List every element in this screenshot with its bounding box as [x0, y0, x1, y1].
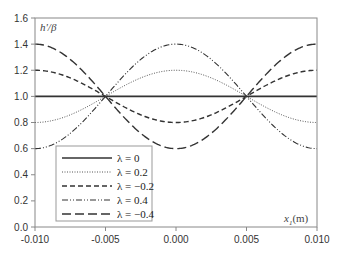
x-tick-label: 0.010	[304, 234, 329, 245]
y-tick-label: 0.4	[14, 169, 28, 180]
y-tick-label: 0.0	[14, 222, 28, 233]
y-axis-label: h'/β	[40, 21, 57, 33]
x-axis-label: x1(m)	[283, 212, 309, 227]
line-chart: 0.00.20.40.60.81.01.21.41.6 -0.010-0.005…	[0, 0, 339, 260]
legend-label: λ = −0.4	[117, 208, 154, 220]
series-lines	[35, 44, 317, 149]
y-axis-ticks: 0.00.20.40.60.81.01.21.41.6	[14, 13, 35, 233]
x-tick-label: -0.005	[91, 234, 120, 245]
legend-label: λ = −0.2	[117, 180, 154, 192]
legend-label: λ = 0.4	[117, 194, 148, 206]
y-tick-label: 0.6	[14, 143, 28, 154]
x-tick-label: 0.000	[163, 234, 188, 245]
legend: λ = 0λ = 0.2λ = −0.2λ = 0.4λ = −0.4	[56, 146, 154, 221]
x-tick-label: 0.005	[234, 234, 259, 245]
y-tick-label: 1.0	[14, 91, 28, 102]
x-tick-label: -0.010	[21, 234, 50, 245]
y-tick-label: 1.4	[14, 39, 28, 50]
legend-label: λ = 0	[117, 152, 140, 164]
y-tick-label: 1.2	[14, 65, 28, 76]
y-tick-label: 0.8	[14, 117, 28, 128]
y-tick-label: 1.6	[14, 13, 28, 24]
legend-label: λ = 0.2	[117, 166, 148, 178]
x-axis-ticks: -0.010-0.0050.0000.0050.010	[21, 227, 330, 245]
y-tick-label: 0.2	[14, 195, 28, 206]
